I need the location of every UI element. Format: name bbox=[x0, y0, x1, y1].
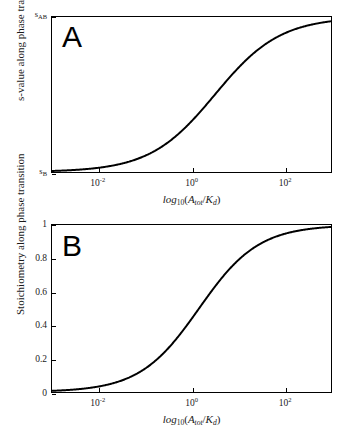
panel-b-xtick-exponent-2: 2 bbox=[288, 396, 291, 403]
panel-a-xtick-label-0: 10-2 bbox=[90, 178, 105, 188]
panel-a-xtick-0 bbox=[99, 168, 100, 172]
panel-a-xaxis-numerator-sub: tot bbox=[195, 198, 203, 207]
panel-a-ytick-0 bbox=[52, 174, 56, 175]
panel-b-xtick-1 bbox=[193, 388, 194, 392]
panel-b-xtick-mantissa-1: 10 bbox=[185, 398, 195, 408]
panel-b-xaxis-denominator: K bbox=[206, 413, 213, 425]
panel-b-xaxis-numerator-sub: tot bbox=[195, 418, 203, 427]
panel-b-xaxis-log: log bbox=[163, 413, 177, 425]
panel-a-xaxis-log: log bbox=[163, 193, 177, 205]
panel-b-xaxis-base: 10 bbox=[177, 418, 185, 427]
panel-b-ytick-5 bbox=[52, 225, 56, 226]
panel-a-xaxis-paren-close: ) bbox=[217, 193, 221, 205]
panel-b-xaxis-numerator: A bbox=[188, 413, 195, 425]
panel-b-xtick-label-1: 100 bbox=[185, 398, 198, 408]
panel-a-xtick-1 bbox=[193, 168, 194, 172]
panel-a-xtick-2 bbox=[286, 168, 287, 172]
panel-b-ytick-0 bbox=[52, 394, 56, 395]
panel-b-ytick-3 bbox=[52, 293, 56, 294]
panel-a-plot-area bbox=[52, 17, 331, 172]
panel-b-xtick-2 bbox=[286, 388, 287, 392]
panel-a-yaxis-title: s-value along phase transition bbox=[14, 0, 26, 101]
panel-a-letter: A bbox=[62, 22, 82, 52]
panel-b-ytick-label-4: 0.8 bbox=[35, 253, 47, 263]
panel-b-xtick-mantissa-0: 10 bbox=[90, 398, 100, 408]
panel-b-ytick-label-0: 0 bbox=[42, 388, 47, 398]
panel-a-ytick-label-bottom: sB bbox=[39, 166, 47, 176]
panel-b-xtick-0 bbox=[99, 388, 100, 392]
panel-a-ytick-1 bbox=[52, 17, 56, 18]
panel-b-plot-area bbox=[52, 225, 331, 392]
panel-b-xtick-mantissa-2: 10 bbox=[279, 398, 289, 408]
panel-b-xtick-label-2: 102 bbox=[279, 398, 292, 408]
panel-b-yaxis-title: Stoichiometry along phase transition bbox=[14, 153, 26, 315]
panel-b-curve bbox=[52, 227, 331, 391]
panel-b-xaxis-denominator-sub: d bbox=[213, 418, 217, 427]
panel-b-ytick-label-3: 0.6 bbox=[35, 287, 47, 297]
panel-a-xtick-mantissa-2: 10 bbox=[279, 178, 289, 188]
panel-a-xaxis-denominator-sub: d bbox=[213, 198, 217, 207]
panel-a-xaxis-title: log10(Atot/Kd) bbox=[51, 193, 332, 205]
panel-a: s-value along phase transition sAB sB A … bbox=[0, 0, 343, 215]
panel-a-xtick-exponent-0: -2 bbox=[100, 176, 105, 183]
panel-b-ytick-label-2: 0.4 bbox=[35, 320, 47, 330]
panel-a-plot-frame bbox=[51, 16, 332, 173]
panel-b-xaxis-paren-close: ) bbox=[217, 413, 221, 425]
panel-b: Stoichiometry along phase transition B l… bbox=[0, 215, 343, 431]
panel-b-letter: B bbox=[62, 231, 82, 261]
panel-b-xaxis-title: log10(Atot/Kd) bbox=[51, 413, 332, 425]
panel-a-xtick-mantissa-1: 10 bbox=[185, 178, 195, 188]
panel-b-ytick-label-1: 0.2 bbox=[35, 354, 47, 364]
panel-a-curve bbox=[52, 21, 331, 171]
panel-b-ytick-1 bbox=[52, 360, 56, 361]
panel-a-xaxis-numerator: A bbox=[188, 193, 195, 205]
panel-b-ytick-4 bbox=[52, 259, 56, 260]
panel-a-xtick-label-2: 102 bbox=[279, 178, 292, 188]
panel-b-xtick-exponent-1: 0 bbox=[195, 396, 198, 403]
panel-a-xtick-label-1: 100 bbox=[185, 178, 198, 188]
panel-b-xtick-exponent-0: -2 bbox=[100, 396, 105, 403]
panel-a-xaxis-base: 10 bbox=[177, 198, 185, 207]
panel-a-xtick-mantissa-0: 10 bbox=[90, 178, 100, 188]
figure-container: s-value along phase transition sAB sB A … bbox=[0, 0, 343, 431]
panel-a-xtick-exponent-2: 2 bbox=[288, 176, 291, 183]
panel-a-ytick-subscript-top: AB bbox=[38, 13, 47, 20]
panel-a-ytick-label-top: sAB bbox=[35, 9, 47, 19]
panel-b-xtick-label-0: 10-2 bbox=[90, 398, 105, 408]
panel-a-xaxis-denominator: K bbox=[206, 193, 213, 205]
panel-a-xtick-exponent-1: 0 bbox=[195, 176, 198, 183]
panel-b-plot-frame bbox=[51, 224, 332, 393]
panel-a-ytick-subscript-bottom: B bbox=[43, 170, 47, 177]
panel-b-ytick-label-5: 1 bbox=[42, 219, 47, 229]
panel-b-ytick-2 bbox=[52, 326, 56, 327]
